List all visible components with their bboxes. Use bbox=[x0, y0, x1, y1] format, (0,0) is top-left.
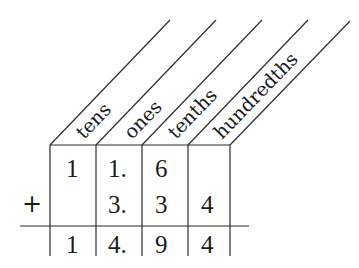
cell: 4. bbox=[108, 231, 127, 258]
column-header-ones: ones bbox=[119, 95, 166, 142]
cell: 3. bbox=[108, 191, 127, 218]
cell: 4 bbox=[201, 231, 214, 258]
plus-operator: + bbox=[22, 190, 42, 218]
cell: 9 bbox=[155, 231, 168, 258]
column-header-hundredths: hundredths bbox=[209, 48, 302, 143]
cell: 1. bbox=[108, 155, 127, 182]
addend-1-row: 1 1. 6 bbox=[66, 155, 168, 182]
diagonal-2 bbox=[96, 20, 216, 145]
cell: 1 bbox=[66, 155, 79, 182]
column-header-tens: tens bbox=[71, 98, 115, 143]
diagonal-3 bbox=[142, 20, 262, 145]
cell: 1 bbox=[66, 231, 79, 258]
cell: 6 bbox=[155, 155, 168, 182]
addend-2-row: 3. 3 4 bbox=[108, 191, 214, 218]
diagonal-1 bbox=[50, 20, 170, 145]
sum-row: 1 4. 9 4 bbox=[66, 231, 214, 258]
cell: 4 bbox=[201, 191, 214, 218]
column-grid bbox=[20, 145, 249, 256]
place-value-diagram: tens ones tenths hundredths + 1 1. 6 3. … bbox=[0, 0, 359, 268]
cell: 3 bbox=[155, 191, 168, 218]
